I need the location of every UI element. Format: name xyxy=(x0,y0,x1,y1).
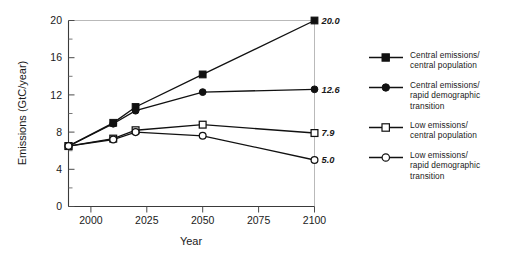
legend-sample-open-circle xyxy=(368,152,404,163)
data-point-marker xyxy=(132,129,139,136)
data-point-marker xyxy=(110,120,117,127)
axes xyxy=(69,21,315,207)
y-tick-label: 16 xyxy=(50,51,62,63)
y-axis-minor-ticks xyxy=(69,39,73,188)
x-axis-tick-labels: 2000 2025 2050 2075 2100 xyxy=(79,214,326,226)
emissions-projection-figure: 0 4 8 12 16 20 2000 2025 2050 2075 2100 … xyxy=(0,0,519,265)
data-point-marker xyxy=(311,157,318,164)
x-tick-label: 2025 xyxy=(135,214,159,226)
y-tick-label: 12 xyxy=(50,89,62,101)
series-0 xyxy=(65,17,318,149)
y-tick-label: 8 xyxy=(56,126,62,138)
series-end-labels: 20.012.67.95.0 xyxy=(321,16,341,166)
plot-frame xyxy=(69,21,315,207)
legend-sample-open-square xyxy=(368,122,404,133)
y-tick-label: 0 xyxy=(56,200,62,212)
y-axis-title: Emissions (GtC/year) xyxy=(16,61,28,166)
legend-label: Central emissions/ rapid demographic tra… xyxy=(410,80,480,111)
legend-sample-filled-square xyxy=(368,52,404,63)
legend-label: Low emissions/ central population xyxy=(410,120,477,141)
series-line xyxy=(69,132,315,160)
data-series-layer xyxy=(65,17,318,163)
legend-item-low-emissions-central-population[interactable]: Low emissions/ central population xyxy=(368,120,519,141)
data-point-marker xyxy=(132,107,139,114)
series-end-value-label: 7.9 xyxy=(322,128,336,138)
x-tick-label: 2075 xyxy=(247,214,271,226)
chart-legend: Central emissions/ central population Ce… xyxy=(368,50,519,190)
x-tick-label: 2000 xyxy=(79,214,103,226)
series-end-value-label: 20.0 xyxy=(321,16,341,26)
x-axis-title: Year xyxy=(180,235,203,247)
y-axis-tick-labels: 0 4 8 12 16 20 xyxy=(50,14,62,212)
x-axis-ticks xyxy=(91,207,315,213)
series-line xyxy=(69,89,315,146)
legend-item-central-emissions-rapid-demographic-transition[interactable]: Central emissions/ rapid demographic tra… xyxy=(368,80,519,111)
data-point-marker xyxy=(199,71,206,78)
data-point-marker xyxy=(199,132,206,139)
legend-sample-filled-circle xyxy=(368,82,404,93)
legend-label: Low emissions/ rapid demographic transit… xyxy=(410,150,480,181)
data-point-marker xyxy=(199,121,206,128)
y-tick-label: 20 xyxy=(50,14,62,26)
y-tick-label: 4 xyxy=(56,163,62,175)
data-point-marker xyxy=(311,17,318,24)
data-point-marker xyxy=(110,136,117,143)
data-point-marker xyxy=(65,143,72,150)
data-point-marker xyxy=(199,89,206,96)
series-end-value-label: 5.0 xyxy=(322,155,336,165)
legend-item-low-emissions-rapid-demographic-transition[interactable]: Low emissions/ rapid demographic transit… xyxy=(368,150,519,181)
legend-item-central-emissions-central-population[interactable]: Central emissions/ central population xyxy=(368,50,519,71)
data-point-marker xyxy=(311,86,318,93)
data-point-marker xyxy=(311,130,318,137)
x-tick-label: 2100 xyxy=(303,214,327,226)
series-end-value-label: 12.6 xyxy=(322,85,341,95)
x-tick-label: 2050 xyxy=(191,214,215,226)
series-3 xyxy=(65,129,318,164)
legend-label: Central emissions/ central population xyxy=(410,50,480,71)
